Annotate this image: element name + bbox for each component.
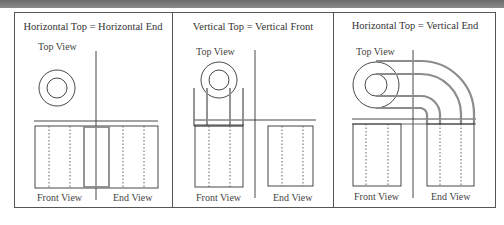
panel-2-drawing (193, 50, 316, 198)
projection-drawings (0, 0, 504, 225)
panel-1-drawing (34, 51, 158, 200)
panel-3-drawing (352, 50, 476, 198)
